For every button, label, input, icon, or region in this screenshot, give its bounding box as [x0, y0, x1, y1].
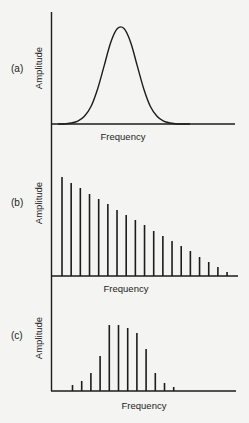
panel-a-label: (a) [11, 63, 23, 74]
panel-b-x-axis-label: Frequency [104, 283, 149, 294]
panel-b-y-axis-label: Amplitude [33, 182, 44, 224]
panel-a-y-axis-label: Amplitude [33, 47, 44, 89]
panel-c-x-axis-label: Frequency [122, 400, 167, 411]
panel-a-x-axis-label: Frequency [101, 131, 146, 142]
panel-a: (a) Amplitude Frequency [11, 27, 235, 142]
panel-c: (c) Amplitude Frequency [11, 317, 236, 411]
panel-c-bars [73, 325, 174, 391]
panel-c-y-axis-label: Amplitude [33, 317, 44, 359]
panel-b-label: (b) [11, 197, 23, 208]
panel-b-bars [62, 177, 227, 276]
spectra-figure: (a) Amplitude Frequency (b) Amplitude Fr… [0, 0, 249, 423]
panel-a-spectrum-curve [58, 27, 190, 124]
panel-b: (b) Amplitude Frequency [11, 177, 238, 294]
panel-c-label: (c) [11, 330, 23, 341]
